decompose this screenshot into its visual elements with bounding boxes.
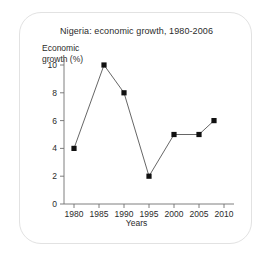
x-axis-ticks: 1980198519901995200020052010: [65, 204, 234, 219]
data-series-line: [74, 65, 214, 176]
y-tick-label: 4: [52, 143, 57, 153]
data-point-marker: [146, 174, 151, 179]
y-tick-label: 10: [48, 60, 58, 70]
y-tick-label: 8: [52, 88, 57, 98]
data-point-marker: [71, 146, 76, 151]
chart-plot: 0246810 1980198519901995200020052010: [20, 13, 253, 245]
chart-card: Nigeria: economic growth, 1980-2006 Econ…: [19, 12, 252, 244]
x-axis: 1980198519901995200020052010: [64, 204, 234, 219]
data-point-marker: [101, 62, 106, 67]
y-tick-label: 0: [52, 199, 57, 209]
y-tick-label: 2: [52, 171, 57, 181]
data-point-marker: [211, 118, 216, 123]
data-point-marker: [171, 132, 176, 137]
data-point-marker: [196, 132, 201, 137]
y-axis-ticks: 0246810: [48, 60, 64, 209]
data-series-markers: [71, 62, 216, 178]
y-tick-label: 6: [52, 116, 57, 126]
y-axis: 0246810: [48, 59, 64, 209]
data-point-marker: [121, 90, 126, 95]
x-axis-label: Years: [20, 218, 253, 228]
